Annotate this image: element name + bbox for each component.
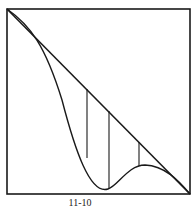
- figure-label: 11-10: [62, 197, 98, 208]
- diagram: [0, 0, 194, 210]
